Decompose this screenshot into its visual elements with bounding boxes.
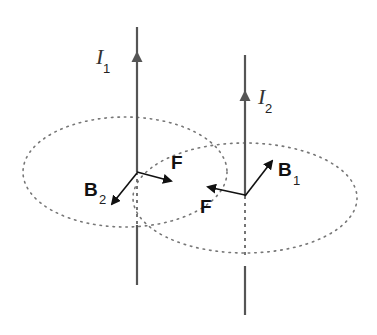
b1-vector-arrow-icon (245, 161, 272, 196)
field-loop-wire-1 (23, 117, 227, 227)
b2-subscript: 2 (99, 192, 106, 207)
wire-1 (132, 27, 143, 285)
wire-2 (240, 55, 251, 315)
force-on-wire-2-arrow-icon (208, 187, 245, 195)
b1-label: B (278, 159, 292, 180)
force-label-wire-1: F (171, 152, 183, 173)
wire-2-current-subscript: 2 (265, 101, 272, 116)
current-arrow-icon (240, 90, 251, 101)
b1-subscript: 1 (293, 173, 300, 188)
b2-label: B (84, 179, 98, 200)
parallel-wires-diagram: I 1 I 2 B 2 F B 1 F (0, 0, 377, 335)
wire-1-current-subscript: 1 (103, 61, 110, 76)
current-arrow-icon (132, 51, 143, 62)
force-label-wire-2: F (200, 196, 212, 217)
